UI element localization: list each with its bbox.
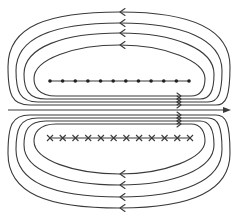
- current-into-page-row: [47, 135, 193, 141]
- dot-marker-icon: [73, 79, 77, 83]
- dot-marker-icon: [99, 79, 103, 83]
- dot-marker-icon: [111, 79, 115, 83]
- bottom-loop-3: [24, 121, 214, 185]
- dot-marker-icon: [149, 79, 153, 83]
- dot-marker-icon: [162, 79, 166, 83]
- bottom-field-loops: [8, 112, 230, 212]
- dot-marker-icon: [124, 79, 128, 83]
- dot-marker-icon: [48, 79, 52, 83]
- dot-marker-icon: [61, 79, 65, 83]
- top-field-loops: [8, 9, 230, 109]
- dot-marker-icon: [175, 79, 179, 83]
- bottom-loop-1: [8, 115, 230, 208]
- top-loop-4: [34, 45, 205, 96]
- top-loop-1: [8, 12, 230, 105]
- top-loop-3: [24, 33, 214, 99]
- axis-arrow-icon: [223, 107, 231, 113]
- dot-marker-icon: [137, 79, 141, 83]
- dot-marker-icon: [86, 79, 90, 83]
- central-field-axis: [8, 107, 231, 113]
- bottom-loop-4: [34, 124, 205, 174]
- current-out-of-page-row: [48, 79, 191, 83]
- dot-marker-icon: [187, 79, 191, 83]
- top-loop-2: [16, 23, 222, 102]
- field-lines-diagram: [0, 0, 237, 221]
